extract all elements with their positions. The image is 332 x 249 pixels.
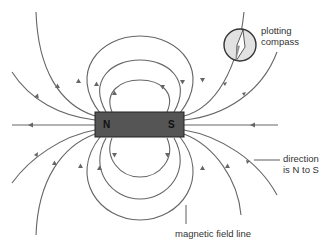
field-line-label: magnetic field line xyxy=(175,228,251,239)
field-line-open-top-right-1 xyxy=(184,12,244,116)
direction-label-line1: direction xyxy=(283,153,319,164)
direction-label: direction is N to S xyxy=(283,153,319,175)
north-pole-label: N xyxy=(103,119,110,130)
field-line-loop-lower-middle xyxy=(100,138,180,199)
field-line-loop-upper-inner xyxy=(110,80,170,112)
field-line-open-bottom-left-1 xyxy=(12,130,95,183)
direction-label-line2: is N to S xyxy=(283,164,319,175)
compass-label: plotting compass xyxy=(261,25,299,47)
field-line-loop-lower-inner xyxy=(110,138,170,177)
compass-label-line2: compass xyxy=(261,36,299,47)
field-line-open-bottom-right-1 xyxy=(184,130,277,195)
compass-label-line1: plotting xyxy=(261,25,299,36)
field-line-open-top-left-1 xyxy=(36,12,95,116)
field-line-loop-upper-outer xyxy=(87,36,193,113)
south-pole-label: S xyxy=(168,119,175,130)
plotting-compass xyxy=(224,29,256,61)
field-line-open-top-left-2 xyxy=(12,72,95,120)
field-line-loop-upper-middle xyxy=(100,60,180,112)
field-line-open-bottom-left-2 xyxy=(36,134,95,235)
field-line-loop-lower-outer xyxy=(87,137,193,220)
